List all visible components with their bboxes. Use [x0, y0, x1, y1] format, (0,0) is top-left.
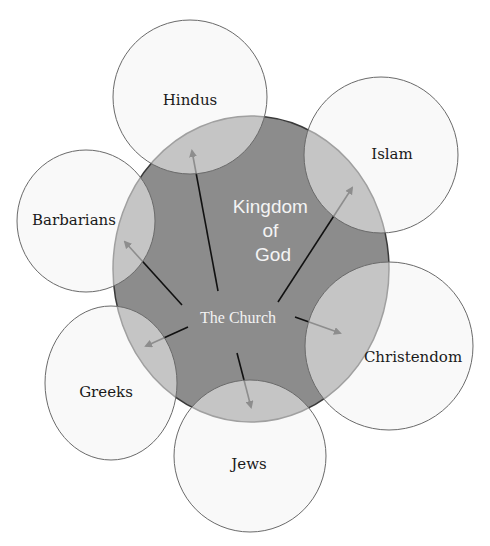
christendom-circle — [305, 262, 473, 430]
the-church-label: The Church — [200, 309, 276, 326]
kingdom-line-1: Kingdom — [233, 196, 308, 217]
christendom-label: Christendom — [364, 348, 462, 366]
jews-label: Jews — [229, 455, 266, 473]
kingdom-line-3: God — [255, 244, 291, 265]
greeks-label: Greeks — [79, 383, 133, 401]
kingdom-line-2: of — [262, 220, 279, 241]
kingdom-of-god-diagram: Kingdom of God The Church HindusIslamBar… — [0, 0, 490, 546]
barbarians-label: Barbarians — [32, 211, 116, 229]
islam-label: Islam — [371, 145, 413, 163]
hindus-label: Hindus — [163, 91, 218, 109]
